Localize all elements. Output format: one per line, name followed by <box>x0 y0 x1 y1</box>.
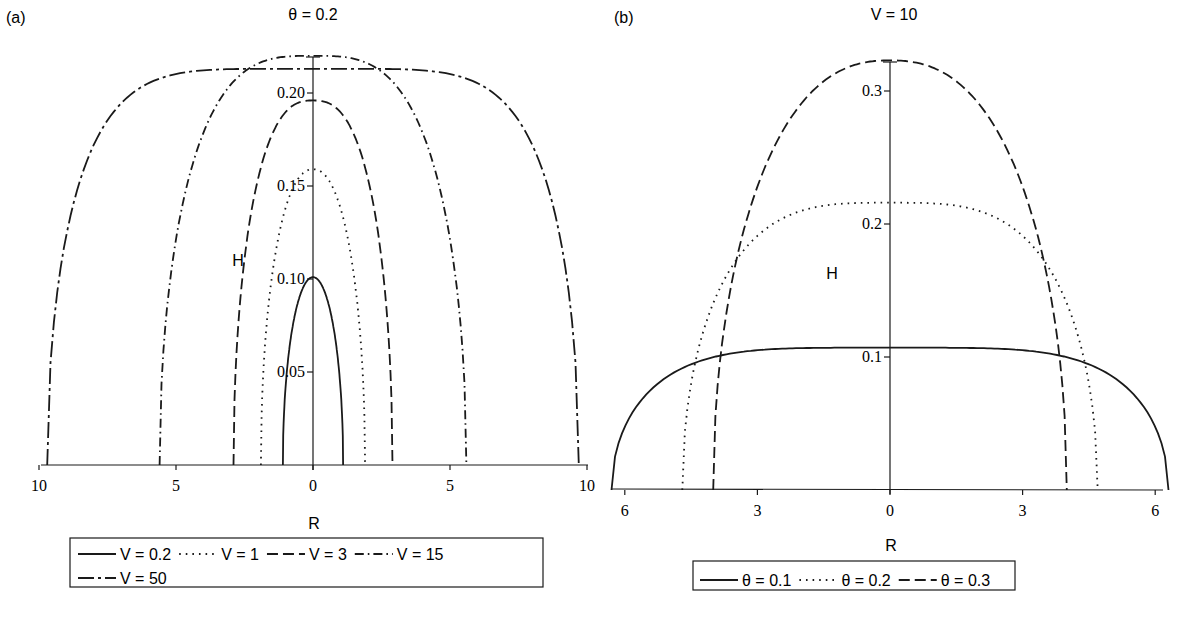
panel-b-title: V = 10 <box>871 6 918 23</box>
panel-b: (b) V = 10 H R 63036 0.10.20.3 θ = 0.1θ … <box>611 6 1169 590</box>
panel-b-ylabel: H <box>826 265 838 282</box>
x-tick-label: 0 <box>886 502 894 519</box>
y-tick-label: 0.15 <box>277 177 305 194</box>
legend-label: V = 15 <box>397 546 444 563</box>
y-tick-label: 0.10 <box>277 270 305 287</box>
y-tick-label: 0.20 <box>277 84 305 101</box>
x-tick-label: 10 <box>31 477 47 494</box>
panel-b-x-ticks: 63036 <box>621 490 1159 519</box>
panel-a-legend: V = 0.2V = 1V = 3V = 15V = 50 <box>70 538 543 587</box>
x-tick-label: 6 <box>1151 502 1159 519</box>
x-tick-label: 6 <box>621 502 629 519</box>
panel-a-label: (a) <box>6 9 26 26</box>
y-tick-label: 0.2 <box>862 215 882 232</box>
legend-label: V = 50 <box>120 570 167 587</box>
y-tick-label: 0.1 <box>862 348 882 365</box>
legend-label: V = 0.2 <box>120 546 171 563</box>
legend-label: V = 3 <box>309 546 347 563</box>
panel-b-y-ticks: 0.10.20.3 <box>862 82 890 365</box>
legend-label: V = 1 <box>221 546 259 563</box>
legend-label: θ = 0.2 <box>841 572 890 589</box>
panel-b-xlabel: R <box>885 537 897 554</box>
panel-a-xlabel: R <box>308 515 320 532</box>
x-tick-label: 0 <box>309 477 317 494</box>
panel-a-ylabel: H <box>232 252 244 269</box>
legend-label: θ = 0.1 <box>742 572 791 589</box>
x-tick-label: 5 <box>172 477 180 494</box>
panel-a-x-ticks: 1050510 <box>31 465 595 494</box>
panel-a: (a) θ = 0.2 H R 1050510 0.050.100.150.20… <box>6 6 595 587</box>
y-tick-label: 0.3 <box>862 82 882 99</box>
figure: (a) θ = 0.2 H R 1050510 0.050.100.150.20… <box>0 0 1194 617</box>
legend-label: θ = 0.3 <box>941 572 990 589</box>
x-tick-label: 10 <box>579 477 595 494</box>
x-tick-label: 3 <box>1019 502 1027 519</box>
panel-a-title: θ = 0.2 <box>288 6 337 23</box>
panel-b-legend: θ = 0.1θ = 0.2θ = 0.3 <box>693 561 1015 590</box>
panel-a-y-ticks: 0.050.100.150.20 <box>277 84 313 380</box>
panel-b-x-axis <box>611 489 1163 490</box>
y-tick-label: 0.05 <box>277 363 305 380</box>
x-tick-label: 5 <box>446 477 454 494</box>
x-tick-label: 3 <box>753 502 761 519</box>
panel-b-label: (b) <box>614 9 634 26</box>
